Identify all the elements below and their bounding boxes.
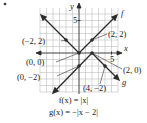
point-label: (2, 0) bbox=[123, 65, 142, 75]
x-axis-arrow-right-icon bbox=[117, 51, 122, 55]
point-label: (2, 2) bbox=[108, 29, 127, 39]
bullet-marker bbox=[4, 3, 7, 6]
x-axis-label: x bbox=[123, 43, 128, 53]
y-axis-label: y bbox=[69, 1, 74, 11]
x-axis-arrow-left-icon bbox=[36, 51, 41, 55]
point-label: (0, −2) bbox=[17, 72, 40, 82]
curve-g-label: g bbox=[122, 77, 126, 87]
equation-g: g(x) = −|x − 2| bbox=[0, 107, 147, 117]
point-label: (0, 0) bbox=[26, 57, 45, 67]
equation-f: f(x) = |x| bbox=[0, 95, 147, 105]
point-label: (4, −2) bbox=[83, 83, 106, 93]
curve-f-label: f bbox=[121, 8, 125, 18]
point-label: (−2, 2) bbox=[22, 36, 45, 46]
x-tick-label: 5 bbox=[110, 54, 114, 64]
axes bbox=[36, 3, 122, 94]
y-tick-label: 5 bbox=[73, 15, 77, 25]
y-axis-arrow-up-icon bbox=[77, 3, 81, 8]
